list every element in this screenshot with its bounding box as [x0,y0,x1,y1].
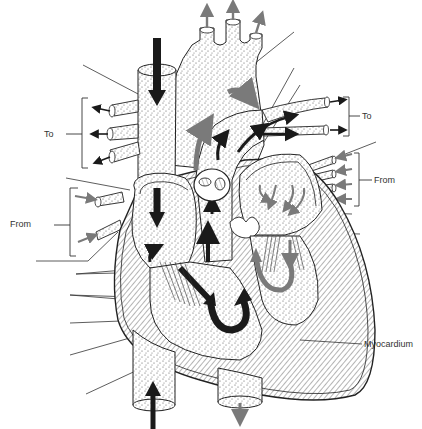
label-right-from: From [374,175,395,185]
label-right-to: To [362,111,372,121]
label-left-from: From [10,219,31,229]
bracket-right-from [354,153,372,206]
pulmonary-arteries-right [262,97,330,136]
right-atrium [132,173,196,268]
label-left-to: To [44,129,54,139]
bracket-left-from [54,188,78,256]
label-myocardium: Myocardium [364,339,413,349]
left-inflow-arrow-2 [78,220,122,242]
svc-branches-left [107,100,140,163]
left-inflow-arrow [75,196,92,199]
heart-diagram-svg [0,0,422,429]
heart-diagram: To From To From Myocardium [0,0,422,429]
bracket-right-to [343,97,360,136]
pulmonary-artery-outflow-arrows [330,100,343,130]
pulmonary-vein-inflow-arrows [340,154,352,199]
semilunar-valves [194,169,230,201]
pulmonary-veins-left [95,192,124,207]
bracket-left-to [66,98,88,168]
